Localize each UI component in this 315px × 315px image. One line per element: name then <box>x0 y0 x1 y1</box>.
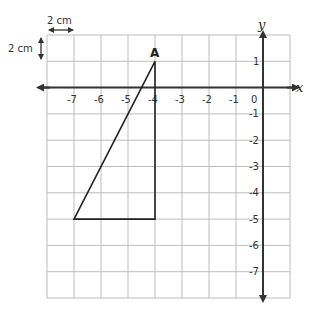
x-tick-label: -7 <box>67 94 77 105</box>
x-tick-label: -6 <box>94 94 104 105</box>
y-axis-label: y <box>257 17 266 32</box>
y-tick-label: -1 <box>249 108 259 119</box>
y-tick-label: -2 <box>249 135 259 146</box>
vertical-scale-label: 2 cm <box>8 43 33 54</box>
x-tick-label: -5 <box>121 94 131 105</box>
vertex-a-label: A <box>150 46 160 60</box>
y-tick-label: -3 <box>249 161 259 172</box>
coordinate-grid-diagram: 2 cm 2 cm x y 0 -7 -6 -5 -4 -3 -2 -1 1 -… <box>0 0 315 315</box>
y-tick-label: 1 <box>253 56 259 67</box>
y-tick-label: -7 <box>249 266 259 277</box>
horizontal-scale-label: 2 cm <box>47 15 72 26</box>
x-tick-labels: -7 -6 -5 -4 -3 -2 -1 <box>67 94 239 105</box>
x-tick-label: -1 <box>229 94 239 105</box>
x-tick-label: -4 <box>148 94 158 105</box>
y-tick-label: -5 <box>249 214 259 225</box>
x-axis-label: x <box>296 80 304 95</box>
x-tick-label: -2 <box>202 94 212 105</box>
horizontal-scale-indicator: 2 cm <box>47 15 73 30</box>
vertical-scale-indicator: 2 cm <box>8 38 41 59</box>
y-tick-label: -6 <box>249 240 259 251</box>
x-tick-label: -3 <box>175 94 185 105</box>
origin-label: 0 <box>251 94 257 105</box>
y-tick-labels: 1 -1 -2 -3 -4 -5 -6 -7 <box>249 56 259 277</box>
y-tick-label: -4 <box>249 187 259 198</box>
